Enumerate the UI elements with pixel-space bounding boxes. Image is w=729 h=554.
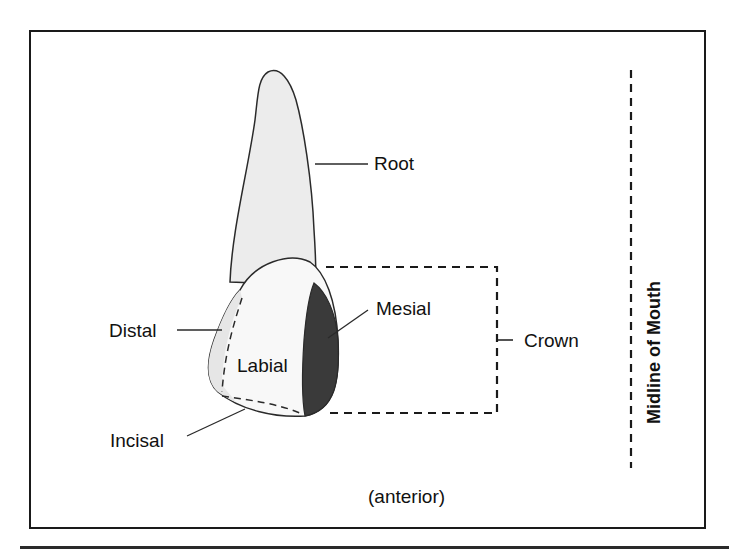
crown-bracket: [326, 267, 497, 413]
tooth-diagram: [0, 0, 729, 554]
label-incisal: Incisal: [110, 431, 164, 450]
label-view: (anterior): [368, 487, 445, 506]
tooth-root: [230, 71, 316, 285]
incisal-leader-line: [187, 409, 245, 436]
label-distal: Distal: [109, 321, 157, 340]
label-labial: Labial: [237, 356, 288, 375]
label-crown: Crown: [524, 331, 579, 350]
label-midline: Midline of Mouth: [645, 281, 663, 424]
label-root: Root: [374, 154, 414, 173]
label-mesial: Mesial: [376, 299, 431, 318]
